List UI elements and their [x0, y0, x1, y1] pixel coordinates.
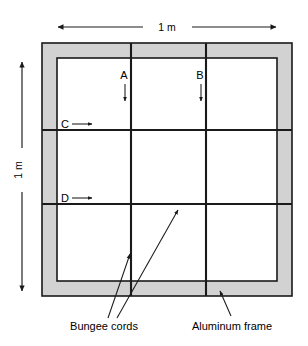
top-dimension-label: 1 m — [158, 21, 176, 33]
frame-inner-edge — [57, 58, 277, 281]
figure-container: 1 m 1 m A — [0, 0, 308, 346]
left-dimension-label: 1 m — [12, 161, 24, 179]
top-dimension: 1 m — [58, 21, 276, 33]
left-dimension: 1 m — [12, 62, 24, 291]
label-a-text: A — [120, 69, 128, 81]
aluminum-frame — [42, 43, 292, 296]
label-c-text: C — [61, 118, 69, 130]
label-b-text: B — [196, 69, 203, 81]
label-d-text: D — [61, 192, 69, 204]
caption-bungee-cords: Bungee cords — [70, 320, 138, 332]
caption-aluminum-frame: Aluminum frame — [192, 320, 272, 332]
bungee-frame-diagram: 1 m 1 m A — [0, 0, 308, 346]
